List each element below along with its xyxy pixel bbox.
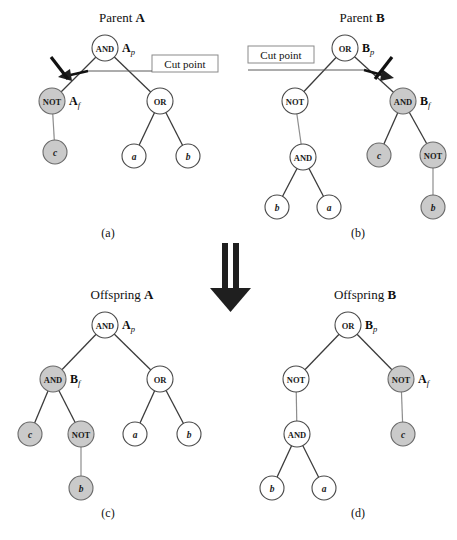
node-tag: Bf: [70, 372, 82, 388]
node-label: AND: [96, 44, 114, 54]
tree-node-or[interactable]: OR: [147, 366, 173, 392]
labels-layer: ApAfBpBfApBfBpAfParent AParent BOffsprin…: [69, 10, 432, 520]
node-tag: Ap: [122, 318, 135, 334]
node-tag: Ap: [122, 41, 135, 57]
tree-node-b[interactable]: b: [69, 476, 93, 500]
tree-node-or[interactable]: OR: [335, 312, 361, 338]
tree-node-a[interactable]: a: [312, 476, 336, 500]
tree-node-b[interactable]: b: [421, 195, 445, 219]
node-label: AND: [294, 153, 312, 163]
tree-node-b[interactable]: b: [265, 195, 289, 219]
node-label: b: [186, 152, 191, 162]
node-label: AND: [394, 97, 412, 107]
edges-layer: [30, 48, 433, 488]
node-tag-subscript: p: [130, 47, 135, 57]
panel-caption-c: (c): [101, 506, 114, 520]
node-tag: Af: [418, 372, 431, 388]
panel-title-a: Parent A: [99, 10, 145, 25]
node-tag-subscript: f: [428, 100, 432, 110]
panel-caption-b: (b): [351, 226, 365, 240]
tree-node-a[interactable]: a: [317, 195, 341, 219]
node-tag: Bf: [420, 94, 432, 110]
node-tag-subscript: f: [78, 378, 82, 388]
node-label: a: [133, 430, 138, 440]
node-label: AND: [96, 321, 114, 331]
tree-node-c[interactable]: c: [43, 140, 67, 164]
panel-caption-d: (d): [351, 506, 365, 520]
tree-node-c[interactable]: c: [391, 422, 415, 446]
tree-node-and[interactable]: AND: [290, 144, 316, 170]
tree-node-not[interactable]: NOT: [420, 142, 446, 168]
tree-node-not[interactable]: NOT: [39, 88, 65, 114]
node-label: OR: [339, 44, 353, 54]
tree-node-not[interactable]: NOT: [68, 421, 94, 447]
tree-node-c[interactable]: c: [18, 422, 42, 446]
tree-node-a[interactable]: a: [123, 422, 147, 446]
tree-node-and[interactable]: AND: [92, 35, 118, 61]
node-tag: Bp: [365, 318, 377, 334]
nodes-layer: ANDNOTcORabORNOTANDbaANDcNOTbANDANDcNOTb…: [18, 35, 446, 500]
node-label: NOT: [424, 151, 443, 161]
node-label: AND: [288, 430, 306, 440]
node-label: NOT: [72, 430, 91, 440]
crossover-diagram: Cut point Cut point ANDNOTcORabORNOTANDb…: [0, 0, 457, 540]
node-label: a: [132, 152, 137, 162]
node-tag-subscript: f: [78, 100, 82, 110]
node-label: OR: [154, 375, 168, 385]
node-tag: Af: [69, 94, 82, 110]
node-tag-subscript: p: [372, 324, 377, 334]
tree-node-and[interactable]: AND: [284, 421, 310, 447]
panel-title-d: Offspring B: [334, 287, 397, 302]
tree-node-or[interactable]: OR: [147, 88, 173, 114]
tree-node-b[interactable]: b: [260, 476, 284, 500]
panel-title-c: Offspring A: [91, 287, 155, 302]
node-label: a: [322, 484, 327, 494]
node-label: OR: [342, 321, 356, 331]
tree-node-b[interactable]: b: [176, 144, 200, 168]
node-label: b: [431, 203, 436, 213]
node-label: b: [270, 484, 275, 494]
node-label: NOT: [287, 375, 306, 385]
tree-node-and[interactable]: AND: [390, 88, 416, 114]
node-label: NOT: [392, 375, 411, 385]
node-label: b: [275, 203, 280, 213]
tree-node-not[interactable]: NOT: [283, 366, 309, 392]
tree-node-and[interactable]: AND: [40, 366, 66, 392]
node-label: NOT: [286, 97, 305, 107]
node-label: b: [79, 484, 84, 494]
figure-canvas: Cut point Cut point ANDNOTcORabORNOTANDb…: [0, 0, 457, 540]
node-label: a: [327, 203, 332, 213]
node-tag: Bp: [362, 41, 374, 57]
panel-title-b: Parent B: [339, 10, 384, 25]
tree-node-c[interactable]: c: [367, 143, 391, 167]
node-tag-subscript: f: [427, 378, 431, 388]
tree-node-b[interactable]: b: [177, 422, 201, 446]
tree-node-or[interactable]: OR: [332, 35, 358, 61]
node-tag-subscript: p: [369, 47, 374, 57]
panel-caption-a: (a): [101, 226, 114, 240]
node-label: b: [187, 430, 192, 440]
tree-node-a[interactable]: a: [122, 144, 146, 168]
node-label: OR: [154, 97, 168, 107]
tree-node-not[interactable]: NOT: [388, 366, 414, 392]
tree-node-and[interactable]: AND: [92, 312, 118, 338]
node-tag-subscript: p: [130, 324, 135, 334]
transform-double-arrow: [210, 243, 251, 312]
node-label: NOT: [43, 97, 62, 107]
cut-slash-a: [51, 57, 68, 79]
cut-point-label-a: Cut point: [164, 58, 205, 70]
cut-point-label-b: Cut point: [260, 49, 301, 61]
node-label: AND: [44, 375, 62, 385]
tree-node-not[interactable]: NOT: [282, 88, 308, 114]
